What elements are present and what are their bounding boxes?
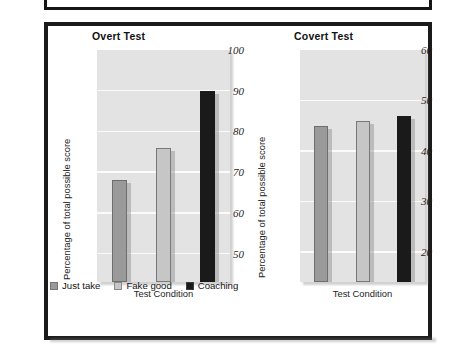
chart-title-overt: Overt Test xyxy=(92,30,145,42)
legend-swatch-icon xyxy=(114,282,122,290)
chart-legend: Just takeFake goodCoaching xyxy=(50,280,238,291)
bar-just-take xyxy=(314,126,328,282)
y-axis-label-overt: Percentage of total possible score xyxy=(61,139,72,280)
legend-item-just-take: Just take xyxy=(50,280,100,291)
bar-fake-good xyxy=(156,148,171,282)
y-axis-tick-label: 60 xyxy=(196,207,244,219)
charts-area: Overt Test Percentage of total possible … xyxy=(44,22,432,340)
y-axis-label-covert: Percentage of total possible score xyxy=(256,137,267,278)
legend-item-coaching: Coaching xyxy=(186,280,239,291)
frame-top-bar xyxy=(44,0,432,10)
y-axis-tick-label: 80 xyxy=(196,125,244,137)
y-axis-tick-label: 50 xyxy=(196,248,244,260)
legend-item-fake-good: Fake good xyxy=(114,280,171,291)
y-axis-tick-label: 60 xyxy=(379,44,432,56)
y-axis-tick-label: 30 xyxy=(379,195,432,207)
legend-label: Just take xyxy=(62,280,100,291)
legend-label: Fake good xyxy=(126,280,171,291)
chart-panel-overt: Overt Test Percentage of total possible … xyxy=(44,22,244,340)
chart-panel-covert: Covert Test Percentage of total possible… xyxy=(242,22,432,340)
legend-label: Coaching xyxy=(198,280,239,291)
y-axis-tick-label: 40 xyxy=(379,145,432,157)
legend-swatch-icon xyxy=(186,282,194,290)
y-axis-tick-label: 70 xyxy=(196,166,244,178)
y-axis-tick-label: 100 xyxy=(196,44,244,56)
y-axis-tick-label: 50 xyxy=(379,94,432,106)
figure-container: Overt Test Percentage of total possible … xyxy=(0,0,476,353)
y-axis-tick-label: 90 xyxy=(196,85,244,97)
bar-just-take xyxy=(112,180,127,282)
y-axis-tick-label: 20 xyxy=(379,246,432,258)
bar-fake-good xyxy=(356,121,370,282)
legend-swatch-icon xyxy=(50,282,58,290)
x-axis-label-covert: Test Condition xyxy=(300,288,425,299)
chart-title-covert: Covert Test xyxy=(294,30,353,42)
